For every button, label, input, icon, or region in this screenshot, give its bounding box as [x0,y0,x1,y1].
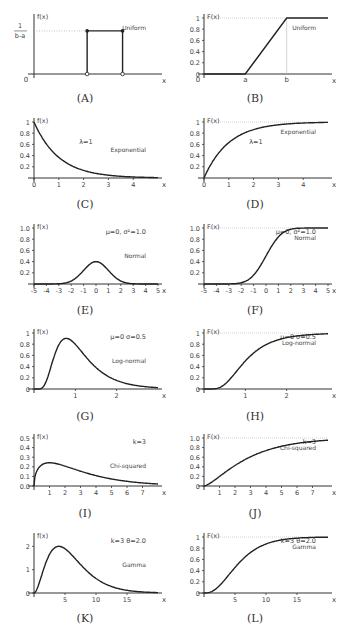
svg-text:1: 1 [227,181,231,189]
svg-text:0.2: 0.2 [190,163,200,171]
svg-text:F(x): F(x) [207,433,220,441]
svg-text:0.6: 0.6 [20,352,30,360]
svg-text:x: x [332,77,336,85]
svg-text:b-a: b-a [15,32,25,40]
caption-L: (L) [170,612,340,625]
caption-D: (D) [170,198,340,211]
svg-text:1: 1 [196,119,200,127]
chart-exponential-cdf: 0.20.40.60.8101234xF(x)Exponentialλ=1 [170,112,340,197]
svg-text:10: 10 [92,596,100,604]
chart-chisquared-cdf: 00.20.40.60.81.01234567xF(x)Chi-squaredk… [170,428,340,513]
svg-text:F(x): F(x) [207,328,220,336]
svg-text:0: 0 [196,483,200,491]
svg-text:4: 4 [94,489,98,497]
svg-text:2: 2 [289,287,293,295]
svg-text:0.4: 0.4 [190,463,200,471]
svg-text:μ=0, σ²=1.0: μ=0, σ²=1.0 [106,228,146,236]
svg-text:Chi-squared: Chi-squared [110,462,146,470]
svg-text:1: 1 [276,287,280,295]
svg-text:k=3 θ=2.0: k=3 θ=2.0 [111,537,146,545]
svg-text:0.4: 0.4 [190,363,200,371]
svg-text:0.8: 0.8 [190,130,200,138]
svg-text:Uniform: Uniform [122,24,146,31]
svg-text:1: 1 [217,489,221,497]
svg-text:-4: -4 [213,287,219,295]
svg-text:0.2: 0.2 [190,269,200,277]
svg-text:-3: -3 [56,287,62,295]
svg-text:0.8: 0.8 [20,341,30,349]
svg-text:0.4: 0.4 [190,567,200,575]
svg-text:4: 4 [131,181,135,189]
svg-text:x: x [162,489,166,497]
svg-text:x: x [332,596,336,604]
svg-text:2: 2 [115,392,119,400]
svg-text:-2: -2 [68,287,74,295]
svg-text:4: 4 [264,489,268,497]
svg-text:4: 4 [144,287,148,295]
chart-lognormal-cdf: 00.20.40.60.8112xF(x)Log-normalμ=0 σ=0.5 [170,323,340,408]
svg-text:4: 4 [301,181,305,189]
svg-text:3: 3 [131,287,135,295]
svg-text:0.2: 0.2 [190,578,200,586]
caption-B: (B) [170,92,340,105]
svg-text:0.8: 0.8 [190,444,200,452]
svg-text:-4: -4 [43,287,49,295]
svg-text:0.0: 0.0 [20,483,30,491]
svg-text:x: x [332,287,336,295]
svg-text:λ=1: λ=1 [79,138,92,146]
svg-text:x: x [332,181,336,189]
svg-text:f(x): f(x) [37,117,48,125]
caption-A: (A) [0,92,170,105]
svg-text:x: x [162,77,166,85]
svg-text:0: 0 [196,590,200,598]
caption-F: (F) [170,304,340,317]
svg-text:x: x [162,181,166,189]
svg-text:Log-normal: Log-normal [112,357,146,365]
svg-text:1: 1 [196,15,200,23]
svg-text:F(x): F(x) [207,13,220,21]
svg-text:b: b [284,76,289,84]
svg-text:0.8: 0.8 [190,341,200,349]
svg-text:1: 1 [26,566,30,574]
svg-text:0.4: 0.4 [190,152,200,160]
svg-text:5: 5 [279,489,283,497]
svg-text:1: 1 [106,287,110,295]
svg-text:-1: -1 [80,287,86,295]
svg-text:0.2: 0.2 [20,269,30,277]
svg-text:1: 1 [18,22,22,30]
svg-text:-5: -5 [31,287,37,295]
svg-text:2: 2 [285,392,289,400]
svg-text:Exponential: Exponential [111,146,147,154]
svg-text:10: 10 [262,596,270,604]
svg-text:0.6: 0.6 [190,141,200,149]
caption-K: (K) [0,612,170,625]
svg-text:1: 1 [47,489,51,497]
caption-I: (I) [0,507,170,520]
svg-text:0.8: 0.8 [20,130,30,138]
chart-exponential-pdf: 0.20.40.60.8101234xf(x)Exponentialλ=1 [0,112,170,197]
caption-H: (H) [170,410,340,423]
svg-text:λ=1: λ=1 [249,138,262,146]
svg-text:0.6: 0.6 [190,352,200,360]
svg-text:0.8: 0.8 [20,236,30,244]
svg-text:0.5: 0.5 [20,435,30,443]
svg-text:0: 0 [196,76,200,84]
svg-text:μ=0 σ=0.5: μ=0 σ=0.5 [110,333,146,341]
svg-text:f(x): f(x) [37,223,48,231]
svg-text:Uniform: Uniform [292,24,316,31]
svg-text:x: x [162,392,166,400]
svg-text:2: 2 [233,489,237,497]
svg-text:15: 15 [293,596,301,604]
svg-text:2: 2 [252,181,256,189]
svg-text:7: 7 [140,489,144,497]
svg-text:1: 1 [196,330,200,338]
svg-text:5: 5 [233,596,237,604]
svg-text:3: 3 [301,287,305,295]
svg-text:1.0: 1.0 [20,225,30,233]
svg-text:0: 0 [26,386,30,394]
chart-uniform-cdf: 00.20.40.60.810abxF(x)Uniform [170,8,340,93]
svg-text:Exponential: Exponential [281,128,317,136]
svg-text:1.0: 1.0 [190,435,200,443]
svg-text:F(x): F(x) [207,117,220,125]
chart-gamma-pdf: 01251015xf(x)Gammak=3 θ=2.0 [0,527,170,612]
